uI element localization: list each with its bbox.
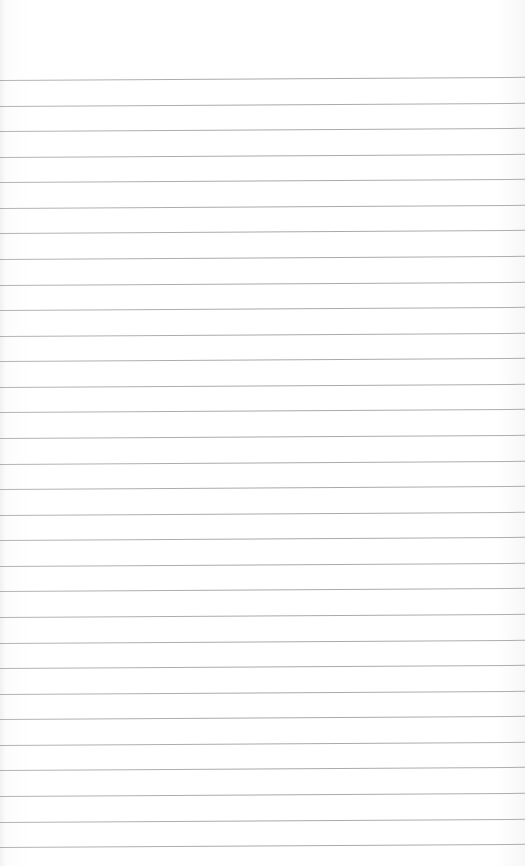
ruled-line xyxy=(0,537,525,541)
ruled-line xyxy=(0,332,525,336)
ruled-line xyxy=(0,793,525,797)
ruled-line xyxy=(0,128,525,132)
ruled-line xyxy=(0,358,525,362)
ruled-line xyxy=(0,435,525,439)
ruled-line xyxy=(0,256,525,260)
ruled-line xyxy=(0,639,525,643)
ruled-line xyxy=(0,460,525,464)
ruled-line xyxy=(0,307,525,311)
ruled-line xyxy=(0,153,525,157)
ruled-line xyxy=(0,716,525,720)
ruled-line xyxy=(0,281,525,285)
ruled-line xyxy=(0,205,525,209)
ruled-line xyxy=(0,742,525,746)
ruled-line xyxy=(0,818,525,822)
lined-paper-sheet xyxy=(0,0,525,866)
ruled-line xyxy=(0,102,525,106)
ruled-line xyxy=(0,665,525,669)
ruled-line xyxy=(0,690,525,694)
ruled-line xyxy=(0,384,525,388)
ruled-line xyxy=(0,614,525,618)
ruled-line xyxy=(0,179,525,183)
ruled-line xyxy=(0,230,525,234)
ruled-line xyxy=(0,844,525,848)
ruled-line xyxy=(0,767,525,771)
ruled-line xyxy=(0,77,525,81)
ruled-line xyxy=(0,486,525,490)
ruled-line xyxy=(0,409,525,413)
ruled-line xyxy=(0,563,525,567)
ruled-line xyxy=(0,511,525,515)
ruled-line xyxy=(0,588,525,592)
